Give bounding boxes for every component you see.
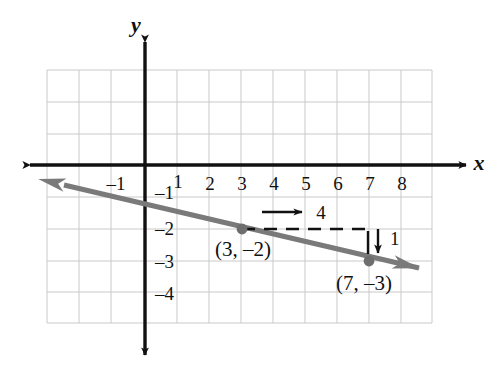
- x-tick-labels: –1 1 2 3 4 5 6 7 8: [106, 171, 407, 194]
- y-tick-label: –4: [154, 283, 175, 304]
- x-tick-label: 1: [173, 171, 183, 192]
- x-tick-label: 8: [397, 173, 407, 194]
- y-tick-label: –1: [154, 182, 174, 203]
- graph-canvas: y x –1 1 2 3 4 5 6 7 8 –1 –2 –3 –4 4: [0, 0, 503, 374]
- coordinate-plane-chart: y x –1 1 2 3 4 5 6 7 8 –1 –2 –3 –4 4: [0, 0, 503, 374]
- x-tick-label: 2: [205, 173, 215, 194]
- x-tick-label: 7: [365, 173, 375, 194]
- y-tick-label: –2: [154, 218, 174, 239]
- data-point-2: [364, 256, 375, 267]
- run-value-label: 4: [316, 202, 326, 223]
- x-tick-label: 5: [301, 173, 311, 194]
- x-tick-label: 4: [269, 173, 279, 194]
- y-tick-labels: –1 –2 –3 –4: [154, 182, 175, 304]
- x-axis-label: x: [473, 150, 485, 175]
- data-point-1-label: (3, –2): [215, 237, 271, 261]
- y-tick-label: –3: [154, 251, 174, 272]
- data-point-2-label: (7, –3): [336, 271, 392, 295]
- x-tick-label: 3: [237, 173, 247, 194]
- y-axis-label: y: [128, 12, 141, 37]
- x-tick-label: –1: [106, 173, 126, 194]
- x-tick-label: 6: [333, 173, 343, 194]
- data-point-1: [237, 224, 248, 235]
- rise-value-label: 1: [390, 228, 400, 249]
